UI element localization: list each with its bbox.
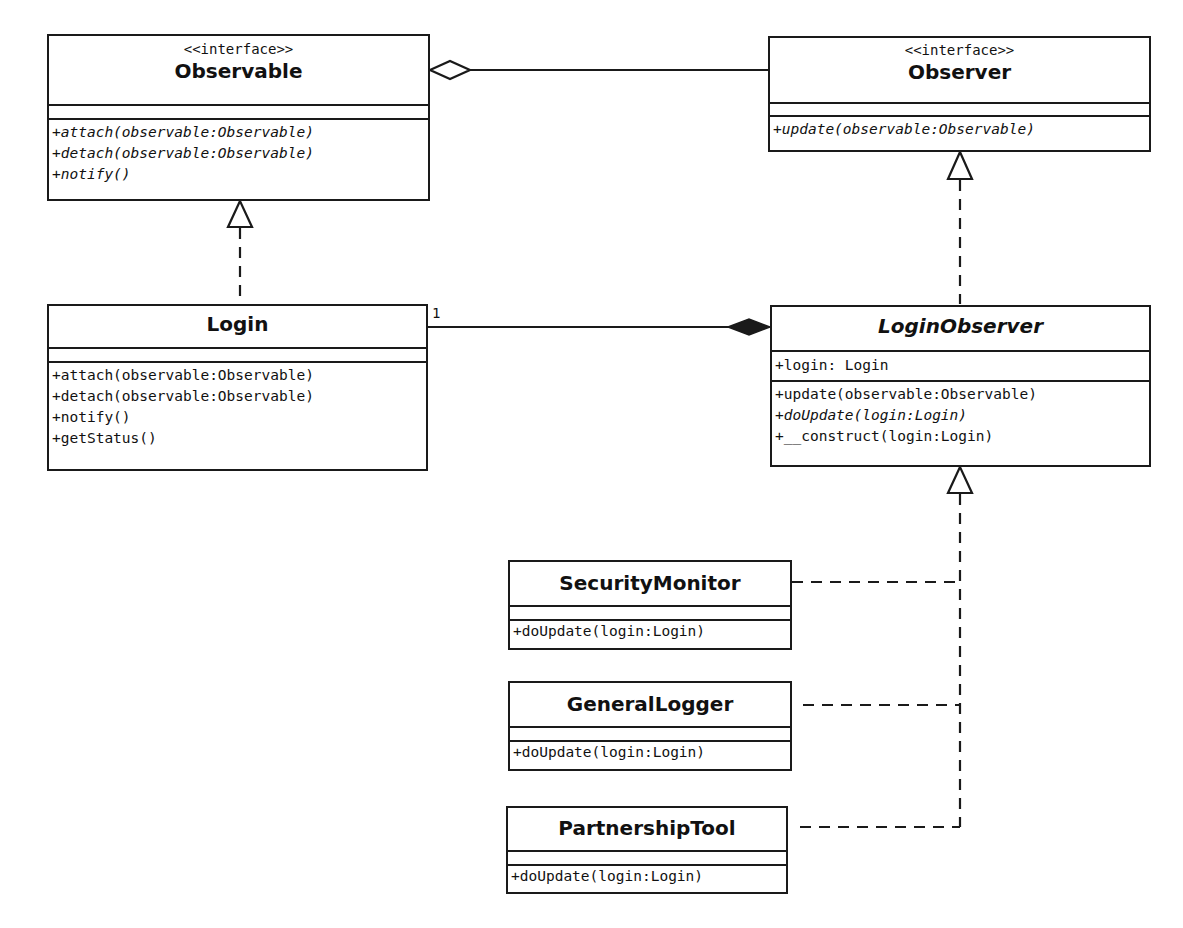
class-header: LoginObserver [772, 307, 1149, 352]
operation: +getStatus() [49, 428, 426, 449]
class-generallogger[interactable]: GeneralLogger +doUpdate(login:Login) [508, 681, 792, 771]
filled-diamond-icon [728, 319, 770, 335]
class-header: <<interface>> Observable [49, 36, 428, 106]
attributes-compartment: +login: Login [772, 352, 1149, 382]
stereotype-label: <<interface>> [49, 40, 428, 58]
operations-compartment: +attach(observable:Observable) +detach(o… [49, 120, 428, 186]
operation: +doUpdate(login:Login) [510, 742, 790, 763]
operation: +notify() [49, 164, 428, 185]
operations-compartment: +attach(observable:Observable) +detach(o… [49, 363, 426, 450]
operation: +notify() [49, 407, 426, 428]
class-partnershiptool[interactable]: PartnershipTool +doUpdate(login:Login) [506, 806, 788, 894]
composition-connector [428, 319, 770, 335]
class-observer[interactable]: <<interface>> Observer +update(observabl… [768, 36, 1151, 152]
operation: +detach(observable:Observable) [49, 386, 426, 407]
operations-compartment: +doUpdate(login:Login) [508, 866, 786, 888]
operation: +doUpdate(login:Login) [508, 866, 786, 887]
attributes-compartment [508, 852, 786, 866]
class-name: Login [49, 311, 426, 337]
operation: +doUpdate(login:Login) [510, 621, 790, 642]
operation: +__construct(login:Login) [772, 426, 1149, 447]
aggregation-connector [430, 61, 768, 79]
stereotype-label: <<interface>> [770, 41, 1149, 59]
attributes-compartment [510, 728, 790, 742]
realization-loginobserver-observer [948, 152, 972, 304]
operations-compartment: +update(observable:Observable) [770, 117, 1149, 141]
uml-diagram-canvas: 1 <<interface>> Observable +attach(obser… [0, 0, 1183, 928]
operations-compartment: +doUpdate(login:Login) [510, 621, 790, 643]
attributes-compartment [49, 106, 428, 120]
class-header: PartnershipTool [508, 808, 786, 852]
class-header: <<interface>> Observer [770, 38, 1149, 104]
realization-login-observable [228, 201, 252, 304]
operation: +update(observable:Observable) [770, 119, 1149, 140]
class-name: SecurityMonitor [510, 570, 790, 596]
realization-subclasses-loginobserver [792, 467, 972, 827]
operations-compartment: +update(observable:Observable) +doUpdate… [772, 382, 1149, 448]
attributes-compartment [49, 349, 426, 363]
class-header: SecurityMonitor [510, 562, 790, 607]
class-login[interactable]: Login +attach(observable:Observable) +de… [47, 304, 428, 471]
attributes-compartment [510, 607, 790, 621]
operation: +update(observable:Observable) [772, 384, 1149, 405]
class-header: Login [49, 306, 426, 349]
class-loginobserver[interactable]: LoginObserver +login: Login +update(obse… [770, 305, 1151, 467]
attribute: +login: Login [772, 355, 1149, 376]
class-name: GeneralLogger [510, 691, 790, 717]
operation: +detach(observable:Observable) [49, 143, 428, 164]
class-observable[interactable]: <<interface>> Observable +attach(observa… [47, 34, 430, 201]
hollow-triangle-arrow-icon [948, 467, 972, 493]
operation: +attach(observable:Observable) [49, 365, 426, 386]
class-name: Observable [49, 58, 428, 84]
multiplicity-label: 1 [432, 305, 440, 321]
class-header: GeneralLogger [510, 683, 790, 728]
class-name: LoginObserver [772, 313, 1149, 339]
class-securitymonitor[interactable]: SecurityMonitor +doUpdate(login:Login) [508, 560, 792, 650]
class-name: Observer [770, 59, 1149, 85]
attributes-compartment [770, 104, 1149, 117]
operation: +attach(observable:Observable) [49, 122, 428, 143]
hollow-triangle-arrow-icon [948, 152, 972, 179]
operations-compartment: +doUpdate(login:Login) [510, 742, 790, 764]
hollow-diamond-icon [430, 61, 470, 79]
hollow-triangle-arrow-icon [228, 201, 252, 227]
class-name: PartnershipTool [508, 815, 786, 841]
operation: +doUpdate(login:Login) [772, 405, 1149, 426]
